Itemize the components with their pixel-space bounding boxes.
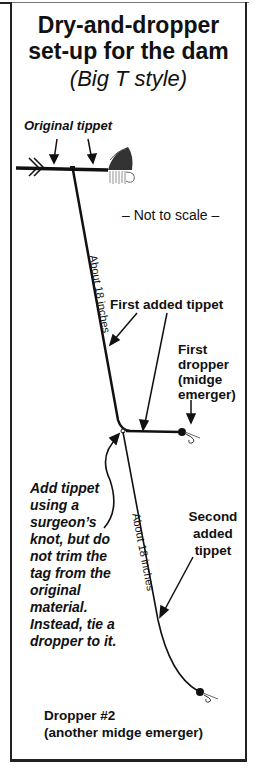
first-added-tippet-label: First added tippet (110, 297, 223, 313)
first-dropper-arrow (187, 400, 195, 423)
original-tippet-label: Original tippet (24, 118, 112, 134)
midge-emerger-icon-1 (178, 428, 200, 443)
note-line: dropper to it. (30, 633, 125, 650)
not-to-scale-note: – Not to scale – (122, 207, 219, 223)
note-line: tag from the (30, 565, 125, 582)
first-dropper-line: dropper (178, 357, 236, 372)
dropper-2-line: Dropper #2 (44, 707, 203, 724)
first-dropper-line: emerger) (178, 387, 236, 402)
first-dropper-label: First dropper (midge emerger) (178, 342, 236, 402)
dropper-2-line: (another midge emerger) (44, 724, 203, 741)
second-added-tippet-arrow (160, 557, 193, 617)
second-tippet-line: tippet (183, 542, 243, 559)
dropper-2-label: Dropper #2 (another midge emerger) (44, 707, 203, 741)
second-added-tippet-line (123, 432, 198, 691)
original-tippet-arrows (50, 139, 96, 163)
midge-emerger-icon-2 (196, 688, 218, 702)
note-line: material. (30, 599, 125, 616)
note-line: Add tippet (30, 480, 125, 497)
note-line: Instead, tie a (30, 616, 125, 633)
note-line: not trim the (30, 548, 125, 565)
first-added-tippet-arrow-right (140, 313, 167, 430)
first-dropper-tag (126, 431, 181, 432)
knot-instruction-note: Add tippet using a surgeon’s knot, but d… (30, 480, 125, 650)
second-tippet-line: added (183, 525, 243, 542)
dry-fly-icon (108, 147, 134, 184)
note-line: using a (30, 497, 125, 514)
second-tippet-line: Second (183, 508, 243, 525)
first-added-tippet-arrow-left (110, 313, 137, 345)
first-dropper-line: First (178, 342, 236, 357)
first-dropper-line: (midge (178, 372, 236, 387)
note-line: original (30, 582, 125, 599)
original-tippet-line (16, 168, 108, 170)
note-line: knot, but do (30, 531, 125, 548)
second-added-tippet-label: Second added tippet (183, 508, 243, 559)
note-line: surgeon’s (30, 514, 125, 531)
